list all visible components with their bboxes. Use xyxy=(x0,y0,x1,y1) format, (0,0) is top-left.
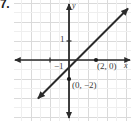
coordinate-graph: y x 1 −1 (2, 0) (0, −2) xyxy=(14,0,131,121)
y-axis-label: y xyxy=(72,2,76,10)
point-label-y-intercept: (0, −2) xyxy=(72,81,97,90)
tick-label-negative-one: −1 xyxy=(54,62,64,71)
x-axis-label: x xyxy=(124,62,128,70)
tick-label-positive-one: 1 xyxy=(60,35,65,44)
point-label-x-intercept: (2, 0) xyxy=(97,62,117,71)
point-marker-0-neg2 xyxy=(67,77,71,81)
problem-number: 7. xyxy=(0,0,9,11)
graph-screenshot: 7. xyxy=(0,0,131,121)
